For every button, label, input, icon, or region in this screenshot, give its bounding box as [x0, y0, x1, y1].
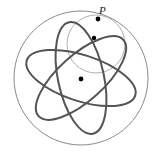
point-p-dot [96, 17, 101, 22]
geometric-figure-svg [0, 0, 163, 156]
point-p-label: P [99, 5, 106, 16]
center-dot [79, 77, 84, 82]
figure-container: P [0, 0, 163, 156]
upper-dot [92, 36, 96, 40]
